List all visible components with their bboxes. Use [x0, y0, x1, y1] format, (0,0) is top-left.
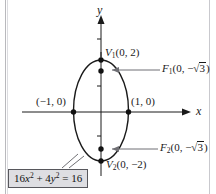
- focus-1-symbol: F: [162, 62, 169, 74]
- equation-rhs: 16: [71, 172, 82, 184]
- focus-1-subscript: 1: [169, 67, 173, 76]
- equation-equals: =: [62, 172, 68, 184]
- vertex-2-label: V2(0, −2): [106, 159, 147, 170]
- focus-2-subscript: 2: [167, 146, 171, 155]
- focus-2-coords-close: ): [204, 141, 208, 153]
- point-vertex-2: [98, 158, 103, 163]
- x-axis-label: x: [196, 105, 201, 117]
- x-intercept-left-label: (−1, 0): [36, 96, 66, 107]
- point-x-intercept-right: [126, 109, 131, 114]
- focus-2-sqrt: √3: [191, 141, 204, 153]
- leader-line-equation-b: [69, 156, 84, 168]
- focus-2-radicand: 3: [197, 141, 204, 153]
- vertex-1-coords: (0, 2): [115, 46, 139, 58]
- equation-coef-x: 16: [14, 172, 25, 184]
- leader-line-equation-a: [62, 154, 78, 168]
- y-axis-label: y: [97, 4, 102, 16]
- vertex-1-label: V1(0, 2): [105, 47, 139, 58]
- equation-plus: +: [36, 172, 42, 184]
- point-focus-1: [98, 68, 103, 73]
- vertex-1-symbol: V: [105, 46, 112, 58]
- leader-arrow-focus-2: [112, 146, 119, 152]
- focus-1-coords-open: (0, −: [172, 62, 193, 74]
- focus-2-label: F2(0, −√3): [160, 141, 208, 153]
- equation-exp-x: 2: [30, 171, 34, 180]
- point-vertex-1: [98, 57, 103, 62]
- vertex-2-subscript: 2: [113, 163, 117, 172]
- focus-1-coords-close: ): [206, 62, 210, 74]
- equation-box: 16x2 + 4y2 = 16: [8, 169, 88, 188]
- vertex-2-coords: (0, −2): [116, 158, 146, 170]
- focus-1-label: F1(0, −√3): [162, 62, 210, 74]
- point-focus-2: [98, 146, 103, 151]
- x-axis-arrowhead: [182, 109, 191, 116]
- focus-1-sqrt: √3: [193, 62, 206, 74]
- focus-1-radicand: 3: [199, 62, 206, 74]
- vertex-1-subscript: 1: [112, 51, 116, 60]
- ellipse-figure: x y V1(0, 2) F1(0, −√3) (−1, 0) (1, 0) F…: [0, 0, 216, 194]
- focus-2-coords-open: (0, −: [170, 141, 191, 153]
- vertex-2-symbol: V: [106, 158, 113, 170]
- equation-exp-y: 2: [56, 171, 60, 180]
- x-intercept-right-label: (1, 0): [131, 96, 155, 107]
- focus-2-symbol: F: [160, 141, 167, 153]
- point-x-intercept-left: [71, 109, 76, 114]
